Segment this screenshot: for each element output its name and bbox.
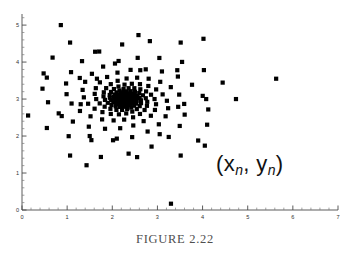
data-point <box>101 64 105 68</box>
x-tick-label: 2 <box>111 214 114 220</box>
data-point <box>160 69 164 73</box>
data-point <box>154 102 158 106</box>
data-point <box>138 68 142 72</box>
data-point <box>45 126 49 130</box>
data-point <box>78 76 82 80</box>
data-point <box>203 144 207 148</box>
data-point <box>157 56 161 60</box>
data-point <box>98 80 102 84</box>
data-point <box>122 98 126 102</box>
data-point <box>176 105 180 109</box>
data-point <box>100 110 104 114</box>
data-point <box>177 93 181 97</box>
data-point <box>136 33 140 37</box>
data-point <box>158 80 162 84</box>
data-point <box>45 76 49 80</box>
data-point <box>154 87 158 91</box>
data-point <box>130 82 134 86</box>
data-point <box>180 60 184 64</box>
annotation-var-x: x <box>224 151 236 176</box>
data-point <box>169 85 173 89</box>
y-tick-label: 4 <box>16 59 19 65</box>
data-point <box>161 92 165 96</box>
data-point <box>141 93 145 97</box>
y-tick-label: 5 <box>16 22 19 28</box>
data-point <box>169 202 173 206</box>
data-point <box>79 102 83 106</box>
data-point <box>112 118 116 122</box>
y-tick-label: 1 <box>16 170 19 176</box>
y-tick-label: 0 <box>16 207 19 213</box>
data-point <box>131 123 135 127</box>
data-point <box>69 101 73 105</box>
data-point <box>88 114 92 118</box>
data-point <box>40 87 44 91</box>
data-point <box>94 86 98 90</box>
data-point <box>144 67 148 71</box>
data-point <box>109 112 113 116</box>
data-point <box>142 119 146 123</box>
data-point <box>98 101 102 105</box>
data-point <box>274 77 278 81</box>
data-points-group <box>26 23 278 206</box>
data-point <box>109 103 113 107</box>
data-point <box>149 144 153 148</box>
data-point <box>115 137 119 141</box>
data-point <box>138 82 142 86</box>
data-point <box>137 91 141 95</box>
data-point <box>183 113 187 117</box>
data-point <box>111 138 115 142</box>
data-point <box>176 74 180 78</box>
data-point <box>145 104 149 108</box>
data-point <box>100 117 104 121</box>
x-tick-label: 4 <box>201 214 204 220</box>
data-point <box>164 114 168 118</box>
data-point <box>93 92 97 96</box>
scatter-plot: 01234567012345 <box>0 0 350 257</box>
annotation-sub-y: n <box>268 162 276 178</box>
y-tick-label: 2 <box>16 133 19 139</box>
data-point <box>68 40 72 44</box>
annotation-comma: , <box>243 151 256 176</box>
data-point <box>120 108 124 112</box>
data-point <box>87 125 91 129</box>
data-point <box>46 100 50 104</box>
data-point <box>146 84 150 88</box>
data-point <box>99 155 103 159</box>
data-point <box>88 134 92 138</box>
x-tick-label: 6 <box>291 214 294 220</box>
data-point <box>122 83 126 87</box>
data-point <box>205 123 209 127</box>
data-point <box>93 107 97 111</box>
data-point <box>103 105 107 109</box>
x-tick-label: 0 <box>20 214 23 220</box>
data-point <box>113 61 117 65</box>
data-point <box>83 80 87 84</box>
data-point <box>90 72 94 76</box>
data-point <box>158 132 162 136</box>
data-point <box>138 112 142 116</box>
data-point <box>71 119 75 123</box>
data-point <box>153 108 157 112</box>
data-point <box>179 153 183 157</box>
data-point <box>166 106 170 110</box>
x-tick-label: 3 <box>156 214 159 220</box>
data-point <box>121 87 125 91</box>
data-point <box>64 92 68 96</box>
data-point <box>80 59 84 63</box>
data-point <box>124 76 128 80</box>
data-point <box>116 84 120 88</box>
data-point <box>131 115 135 119</box>
data-point <box>59 23 63 27</box>
data-point <box>95 77 99 81</box>
annotation-close-paren: ) <box>276 151 284 176</box>
annotation-var-y: y <box>256 151 268 176</box>
data-point <box>42 71 46 75</box>
data-point <box>182 102 186 106</box>
data-point <box>234 97 238 101</box>
data-point <box>130 110 134 114</box>
data-point <box>149 114 153 118</box>
data-point <box>94 97 98 101</box>
data-point <box>60 114 64 118</box>
data-point <box>147 77 151 81</box>
